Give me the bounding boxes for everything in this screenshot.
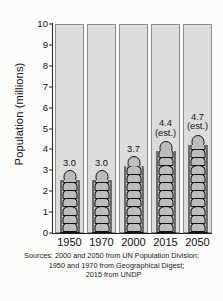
sources-line-2: 1950 and 1970 from Geographical Digest; [0, 261, 223, 271]
population-bar-chart: Population (millions) 012345678910 3.019… [0, 0, 223, 301]
bar-body-2000 [124, 166, 143, 233]
y-axis-tick-label: 0 [28, 228, 48, 238]
person-figure-icon [62, 180, 77, 183]
bar-value-estimate-note: (est.) [178, 122, 218, 132]
y-axis-tick-label: 10 [28, 19, 48, 29]
sources-line-1: Sources: 2000 and 2050 from UN Populatio… [0, 251, 223, 261]
bar-1950 [55, 170, 84, 233]
y-axis-tick-label: 4 [28, 145, 48, 155]
bar-body-2050 [188, 145, 207, 233]
y-axis-tick-label: 6 [28, 103, 48, 113]
person-figure-icon [190, 145, 205, 150]
y-axis-tick-label: 2 [28, 186, 48, 196]
y-axis-tick-label: 3 [28, 166, 48, 176]
person-figure-icon [126, 166, 141, 175]
y-axis-tick-label: 7 [28, 82, 48, 92]
bar-value-label-1970: 3.0 [82, 159, 122, 169]
bar-value-label-2050: 4.7(est.) [178, 113, 218, 132]
bar-1970 [87, 170, 116, 233]
person-figure-icon [158, 165, 173, 175]
sources-line-3: 2015 from UNDP [0, 270, 223, 280]
person-figure-icon [126, 189, 141, 199]
bar-value-label-2000: 3.7 [114, 145, 154, 155]
person-figure-icon [158, 206, 173, 216]
y-axis-line [52, 23, 53, 234]
bar-2000 [119, 156, 148, 233]
bar-body-2015 [156, 151, 175, 233]
bar-value-number: 3.0 [82, 159, 122, 169]
y-axis-tick-label: 9 [28, 40, 48, 50]
y-axis-tick-label: 1 [28, 207, 48, 217]
bar-2050 [183, 135, 212, 233]
y-axis-title: Population (millions) [13, 9, 25, 219]
person-figure-icon [94, 180, 109, 183]
bar-body-1950 [60, 180, 79, 233]
bar-body-1970 [92, 180, 111, 233]
person-figure-icon [190, 197, 205, 207]
person-figure-icon [190, 156, 205, 166]
bar-value-number: 3.7 [114, 145, 154, 155]
x-axis-label-2050: 2050 [178, 236, 218, 248]
person-figure-icon [158, 151, 173, 158]
sources-note: Sources: 2000 and 2050 from UN Populatio… [0, 251, 223, 280]
bar-2015 [151, 141, 180, 233]
y-axis-tick-label: 8 [28, 61, 48, 71]
y-axis-tick-label: 5 [28, 124, 48, 134]
x-axis-line [52, 233, 212, 234]
